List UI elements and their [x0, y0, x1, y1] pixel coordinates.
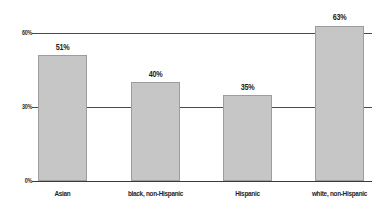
bar-chart: 60% 30% 0% 51% Asian 40% black, non-Hisp…: [0, 0, 388, 212]
axis-baseline-0: [32, 181, 372, 182]
bar-value-asian: 51%: [43, 42, 82, 52]
bar-value-hispanic: 35%: [228, 82, 267, 92]
bar-white-non-hispanic: [315, 26, 364, 181]
bar-value-white-non-hispanic: 63%: [320, 12, 359, 22]
category-label-black-non-hispanic: black, non-Hispanic: [120, 189, 191, 198]
ytick-label-60: 60%: [11, 29, 32, 36]
bar-hispanic: [223, 95, 272, 181]
plot-area: 60% 30% 0% 51% Asian 40% black, non-Hisp…: [0, 0, 388, 212]
category-label-asian: Asian: [39, 189, 86, 198]
category-label-hispanic: Hispanic: [224, 189, 271, 198]
ytick-label-30: 30%: [11, 103, 32, 110]
bar-black-non-hispanic: [131, 82, 180, 181]
bar-asian: [38, 55, 87, 181]
category-label-white-non-hispanic: white, non-Hispanic: [304, 189, 375, 198]
ytick-label-0: 0%: [11, 177, 32, 184]
bar-value-black-non-hispanic: 40%: [136, 69, 175, 79]
